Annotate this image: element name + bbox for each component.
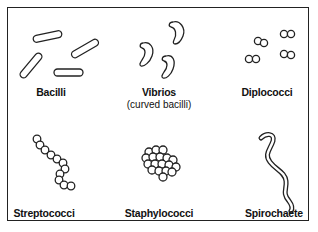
vibrios-label: Vibrios: [142, 86, 176, 98]
vibrios-icon: [140, 22, 184, 78]
bacilli-icon: [19, 30, 100, 79]
staphylococci-label: Staphylococci: [125, 207, 194, 219]
vibrios-sublabel: (curved bacilli): [127, 99, 191, 110]
staphylococci-icon: [142, 146, 180, 181]
streptococci-label: Streptococci: [13, 207, 74, 219]
streptococci-icon: [33, 135, 75, 190]
bacilli-label: Bacilli: [36, 86, 66, 98]
diplococci-icon: [245, 30, 294, 62]
diplococci-label: Diplococci: [241, 86, 292, 98]
spirochaete-icon: [261, 135, 292, 211]
spirochaete-label: Spirochaete: [245, 207, 303, 219]
bacteria-shapes-illustration: [0, 0, 318, 232]
